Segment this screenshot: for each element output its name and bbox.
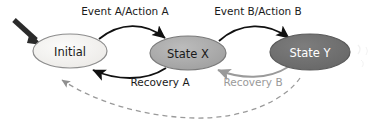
diagram-canvas: Initial State X State Y Event A/Action A… <box>0 0 391 135</box>
edge-label-recovery-a: Recovery A <box>130 76 190 88</box>
edge-event-b <box>219 26 289 41</box>
edge-label-recovery-b: Recovery B <box>223 76 282 88</box>
node-state-y[interactable]: State Y <box>270 34 350 70</box>
start-arrow <box>14 20 42 45</box>
node-initial-label: Initial <box>54 45 86 59</box>
node-state-y-label: State Y <box>289 46 331 60</box>
edge-event-a <box>99 26 165 39</box>
state-diagram: Initial State X State Y Event A/Action A… <box>0 0 391 135</box>
edge-label-event-a: Event A/Action A <box>81 5 169 17</box>
scan-artifacts <box>358 45 368 67</box>
edge-label-event-b: Event B/Action B <box>214 5 302 17</box>
node-initial[interactable]: Initial <box>33 34 107 68</box>
node-state-x[interactable]: State X <box>150 36 226 70</box>
node-state-x-label: State X <box>167 47 209 61</box>
